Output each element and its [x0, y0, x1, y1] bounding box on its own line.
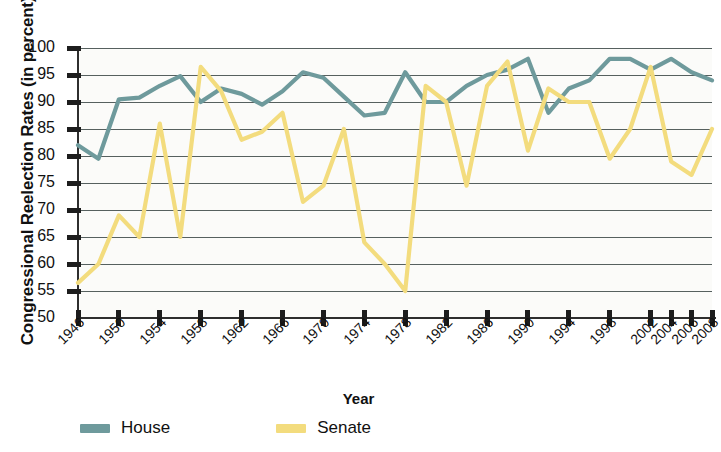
x-axis-tick-label: 1962 [218, 314, 251, 347]
x-axis-tick-label: 1970 [299, 314, 332, 347]
x-axis-tick-label: 1954 [136, 314, 169, 347]
legend-swatch-senate [276, 424, 306, 433]
legend-item-senate: Senate [276, 418, 371, 438]
x-axis-tick-label: 1958 [177, 314, 210, 347]
chart-legend: House Senate [80, 418, 371, 438]
x-axis-title: Year [0, 390, 717, 407]
x-axis-tick-label: 1994 [545, 314, 578, 347]
legend-label-house: House [121, 418, 170, 438]
x-axis-tick-label: 1986 [463, 314, 496, 347]
x-axis-tick-label: 1966 [259, 314, 292, 347]
x-axis-tick-label: 1950 [95, 314, 128, 347]
legend-swatch-house [80, 424, 110, 433]
x-axis-tick-label: 1974 [340, 314, 373, 347]
x-axis-tick-label: 1982 [422, 314, 455, 347]
legend-label-senate: Senate [317, 418, 371, 438]
x-axis-tick-label: 1990 [504, 314, 537, 347]
legend-item-house: House [80, 418, 170, 438]
x-axis-tick-label: 1978 [381, 314, 414, 347]
x-axis-tick-label: 1946 [54, 314, 87, 347]
x-axis-tick-label: 1998 [586, 314, 619, 347]
